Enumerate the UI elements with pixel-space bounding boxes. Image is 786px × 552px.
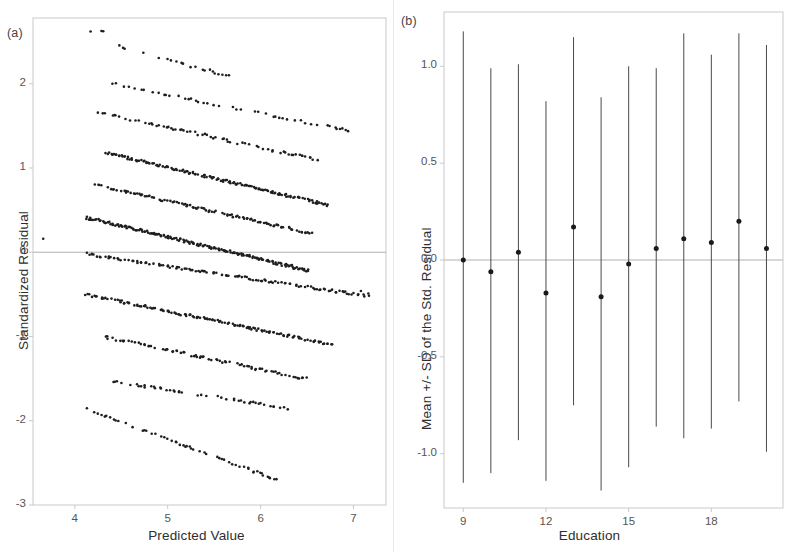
panel-b-xtick-9: 9	[443, 515, 483, 527]
panel-a: (a) Predicted Value Standardized Residua…	[0, 0, 393, 552]
panel-b-ytick-1p0: 1.0	[396, 58, 437, 70]
panel-a-ytick--1: -1	[0, 328, 26, 340]
panel-a-xtick-7: 7	[333, 512, 373, 524]
panel-a-ytick-0: 0	[0, 244, 26, 256]
panel-b-ytick-0p0: 0.0	[396, 252, 437, 264]
panel-b-xtick-18: 18	[691, 515, 731, 527]
panel-a-ytick-2: 2	[0, 76, 26, 88]
panel-a-ytick--2: -2	[0, 413, 26, 425]
panel-a-ytick-1: 1	[0, 160, 26, 172]
panel-a-plot	[0, 0, 393, 552]
panel-a-xtick-4: 4	[55, 512, 95, 524]
panel-a-xtick-6: 6	[241, 512, 281, 524]
panel-b-xtick-12: 12	[526, 515, 566, 527]
panel-b-x-axis-title: Education	[393, 528, 786, 543]
panel-b-ytick--0p5: -0.5	[396, 349, 437, 361]
panel-a-ytick--3: -3	[0, 497, 26, 509]
panel-b-xtick-15: 15	[609, 515, 649, 527]
panel-a-x-axis-title: Predicted Value	[0, 528, 393, 543]
panel-a-xtick-5: 5	[148, 512, 188, 524]
panel-b: (b) Education Mean +/- SD of the Std. Re…	[393, 0, 786, 552]
figure-root: (a) Predicted Value Standardized Residua…	[0, 0, 786, 552]
panel-b-plot	[393, 0, 786, 552]
panel-b-ytick-0p5: 0.5	[396, 155, 437, 167]
panel-b-ytick--1p0: -1.0	[396, 446, 437, 458]
